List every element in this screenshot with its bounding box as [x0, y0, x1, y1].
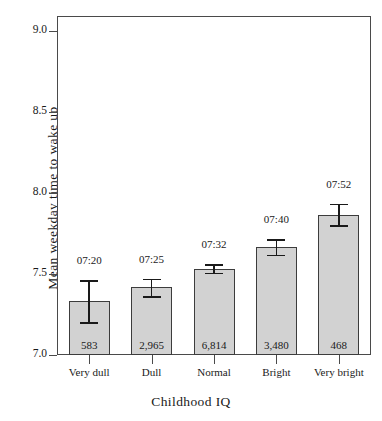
- y-tick-label: 7.5: [7, 266, 47, 278]
- y-tick-mark: [49, 112, 57, 113]
- error-bar-cap-upper: [330, 204, 348, 206]
- bar-count-label: 583: [54, 339, 124, 351]
- error-bar-cap-upper: [80, 280, 98, 282]
- x-axis-title: Childhood IQ: [0, 394, 382, 410]
- error-bar-cap-lower: [80, 322, 98, 324]
- bar-value-label: 07:52: [304, 178, 374, 190]
- error-bar-stem: [88, 280, 90, 322]
- x-tick-mark: [214, 355, 215, 364]
- bar-count-label: 2,965: [117, 339, 187, 351]
- bar-count-label: 3,480: [241, 339, 311, 351]
- y-tick-mark: [49, 31, 57, 32]
- error-bar-cap-lower: [330, 225, 348, 227]
- bar-value-label: 07:32: [179, 238, 249, 250]
- y-tick-label: 8.0: [7, 185, 47, 197]
- error-bar-cap-lower: [143, 296, 161, 298]
- error-bar-stem: [338, 204, 340, 226]
- bar-count-label: 468: [304, 339, 374, 351]
- error-bar-cap-upper: [143, 279, 161, 281]
- x-tick-mark: [89, 355, 90, 364]
- bar-value-label: 07:40: [241, 213, 311, 225]
- x-tick-mark: [152, 355, 153, 364]
- bar-value-label: 07:20: [54, 254, 124, 266]
- error-bar-cap-lower: [267, 255, 285, 257]
- bar-count-label: 6,814: [179, 339, 249, 351]
- y-tick-label: 7.0: [7, 347, 47, 359]
- x-tick-mark: [276, 355, 277, 364]
- bar-chart: Mean weekday time to wake up 7.07.58.08.…: [0, 0, 382, 421]
- x-tick-label-very-bright: Very bright: [294, 366, 382, 378]
- y-tick-label: 9.0: [7, 23, 47, 35]
- error-bar-stem: [276, 239, 278, 254]
- bar: [318, 215, 359, 355]
- y-tick-mark: [49, 355, 57, 356]
- error-bar-stem: [151, 279, 153, 297]
- x-tick-mark: [339, 355, 340, 364]
- y-tick-mark: [49, 193, 57, 194]
- bar-value-label: 07:25: [117, 253, 187, 265]
- error-bar-cap-upper: [267, 239, 285, 241]
- error-bar-cap-upper: [205, 264, 223, 266]
- y-tick-label: 8.5: [7, 104, 47, 116]
- error-bar-cap-lower: [205, 273, 223, 275]
- y-tick-mark: [49, 274, 57, 275]
